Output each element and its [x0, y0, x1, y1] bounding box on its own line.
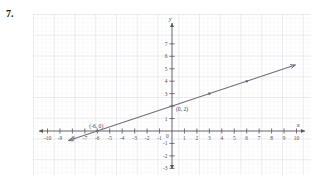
y-tick-label: -3 [163, 165, 168, 171]
x-tick-label: 2 [196, 135, 199, 141]
x-tick-label: -2 [145, 135, 150, 141]
x-tick-label: 9 [283, 135, 286, 141]
x-tick-label: 6 [245, 135, 248, 141]
point-coordinate-label: (-6, 0) [89, 123, 103, 130]
x-tick-label: -5 [108, 135, 113, 141]
y-axis-label: y [168, 16, 172, 22]
x-tick-label: -6 [95, 135, 100, 141]
y-tick-label: 4 [165, 78, 168, 84]
coordinate-graph: -10-9-8-7-6-5-4-3-2-112345678910 765431-… [33, 14, 311, 175]
point-coordinate-label: (0, 2) [176, 106, 188, 113]
x-axis-label: x [296, 122, 300, 128]
x-tick-label: -10 [44, 135, 51, 141]
problem-number: 7. [6, 8, 14, 19]
origin-label: 0 [166, 133, 169, 139]
x-tick-label: 4 [220, 135, 223, 141]
x-tick-label: 1 [183, 135, 186, 141]
y-tick-label: 5 [165, 66, 168, 72]
y-tick-label: 1 [165, 116, 168, 122]
x-tick-label: -1 [157, 135, 162, 141]
x-tick-label: 5 [233, 135, 236, 141]
graph-svg: -10-9-8-7-6-5-4-3-2-112345678910 765431-… [33, 14, 311, 175]
y-tick-label: -2 [163, 153, 168, 159]
x-tick-label: 8 [270, 135, 273, 141]
x-tick-label: -3 [132, 135, 137, 141]
y-tick-label: 3 [165, 91, 168, 97]
y-tick-label: 7 [165, 41, 168, 47]
y-tick-label: 6 [165, 53, 168, 59]
data-point [96, 130, 99, 133]
worksheet-page: 7. [0, 0, 326, 191]
data-point [171, 105, 174, 108]
y-tick-label: -1 [163, 140, 168, 146]
x-tick-label: 10 [294, 135, 300, 141]
x-tick-label: 3 [208, 135, 211, 141]
data-point [245, 80, 248, 83]
data-point [208, 92, 211, 95]
x-tick-label: -9 [58, 135, 63, 141]
x-tick-label: 7 [258, 135, 261, 141]
x-tick-label: -4 [120, 135, 125, 141]
